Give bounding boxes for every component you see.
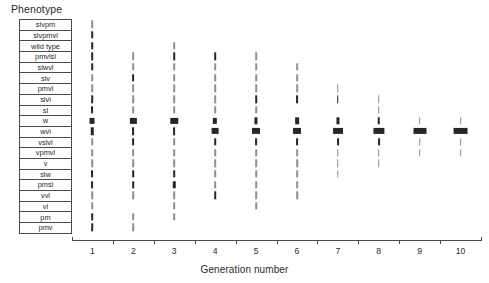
phenotype-label-text: pm [40, 214, 50, 221]
phenotype-generation-chart: Phenotype slvpmslvpmvlwild typepmvlslslw… [0, 0, 489, 283]
phenotype-label-cell: v [20, 159, 71, 170]
phenotype-bar [255, 117, 258, 124]
phenotype-bar [133, 213, 135, 220]
phenotype-bar [173, 85, 175, 92]
phenotype-bar [173, 74, 175, 81]
phenotype-bar [214, 181, 216, 188]
phenotype-bar [133, 63, 135, 70]
phenotype-bar [296, 149, 298, 156]
phenotype-bar [214, 95, 216, 102]
plot-row [72, 158, 481, 169]
x-axis-tick [317, 240, 318, 244]
phenotype-bar [132, 138, 134, 145]
phenotype-bar [460, 117, 462, 124]
phenotype-label-cell: pmv [20, 223, 71, 234]
phenotype-bar [133, 53, 135, 60]
x-axis-tick-label: 9 [417, 246, 422, 256]
phenotype-bar [378, 95, 380, 102]
phenotype-label-cell: vvl [20, 191, 71, 202]
plot-row [72, 19, 481, 30]
phenotype-bar [296, 63, 298, 70]
plot-row [72, 190, 481, 201]
phenotype-bar [132, 74, 134, 81]
phenotype-bar [92, 181, 94, 188]
x-axis-end-tick [481, 237, 482, 242]
phenotype-label-cell: pmvl [20, 84, 71, 95]
phenotype-bar [92, 192, 94, 199]
phenotype-label-text: slwvl [37, 64, 53, 71]
phenotype-bar [173, 181, 175, 188]
phenotype-bar [130, 117, 136, 123]
phenotype-bar [460, 138, 462, 145]
x-axis-tick-label: 10 [456, 246, 466, 256]
phenotype-bar [378, 138, 380, 145]
phenotype-bar [378, 106, 380, 113]
phenotype-label-text: slvpm [36, 21, 55, 28]
phenotype-label-text: v [44, 160, 48, 167]
phenotype-bar [453, 128, 468, 134]
phenotype-label-cell: vpmvl [20, 148, 71, 159]
phenotype-label-cell: pm [20, 212, 71, 223]
phenotype-bar [214, 53, 216, 60]
phenotype-bar [337, 170, 339, 177]
phenotype-bar [255, 85, 257, 92]
phenotype-label-cell: vl [20, 202, 71, 213]
x-axis-tick [236, 240, 237, 244]
phenotype-label-text: vpmvl [36, 149, 55, 156]
phenotype-label-text: pmsl [38, 181, 54, 188]
phenotype-bar [173, 192, 175, 199]
phenotype-label-text: vvl [41, 192, 50, 199]
phenotype-bar [419, 149, 421, 156]
phenotype-bar [213, 117, 217, 123]
phenotype-bar [171, 117, 178, 123]
x-axis-tick [277, 240, 278, 244]
x-axis-tick-label: 6 [295, 246, 300, 256]
phenotype-bar [92, 74, 94, 81]
phenotype-bar [255, 149, 257, 156]
phenotype-bar [173, 149, 175, 156]
phenotype-bar [255, 170, 257, 177]
phenotype-bar [378, 149, 380, 156]
phenotype-bar [92, 224, 94, 231]
phenotype-label-cell: vslvl [20, 138, 71, 149]
plot-row [72, 83, 481, 94]
phenotype-bar [337, 85, 339, 92]
phenotype-label-text: slw [40, 171, 51, 178]
phenotype-bar [90, 117, 95, 123]
x-axis-title: Generation number [0, 264, 489, 275]
phenotype-bar [214, 63, 216, 70]
phenotype-bar [133, 149, 135, 156]
phenotype-label-text: wild type [31, 43, 60, 50]
phenotype-bar [173, 128, 175, 135]
phenotype-bar [255, 202, 257, 209]
phenotype-bar [133, 85, 135, 92]
phenotype-label-text: pmvl [38, 85, 54, 92]
phenotype-label-cell: w [20, 116, 71, 127]
phenotype-label-text: vl [43, 203, 48, 210]
phenotype-bar [92, 21, 94, 28]
phenotype-bar [337, 149, 339, 156]
phenotype-bar [173, 170, 175, 177]
phenotype-bar [296, 170, 298, 177]
plot-row [72, 115, 481, 126]
x-axis-tick [358, 240, 359, 244]
phenotype-bar [293, 128, 301, 134]
phenotype-bar [92, 170, 94, 177]
phenotype-bar [92, 31, 94, 38]
phenotype-label-cell: slv [20, 73, 71, 84]
phenotype-bar [133, 224, 135, 231]
phenotype-bar [214, 138, 216, 145]
plot-row [72, 51, 481, 62]
phenotype-bar [173, 160, 175, 167]
phenotype-bar [92, 106, 94, 113]
phenotype-bar [296, 95, 298, 102]
phenotype-bar [296, 181, 298, 188]
phenotype-bar [173, 106, 175, 113]
phenotype-label-text: w [43, 117, 48, 124]
phenotype-bar [91, 128, 93, 135]
plot-row [72, 137, 481, 148]
x-axis-tick-label: 3 [172, 246, 177, 256]
phenotype-bar [214, 192, 216, 199]
phenotype-bar [214, 160, 216, 167]
phenotype-bar [378, 117, 380, 124]
